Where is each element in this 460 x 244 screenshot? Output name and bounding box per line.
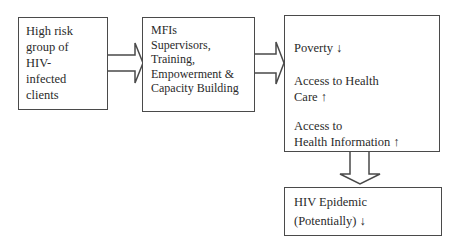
label-line: HIV- xyxy=(26,55,73,71)
node-outcomes: Poverty ↓ Access to Health Care ↑ Access… xyxy=(284,15,440,152)
label-line: Capacity Building xyxy=(151,81,239,96)
label-line: group of xyxy=(26,39,73,55)
node-hiv-epidemic: HIV Epidemic (Potentially) ↓ xyxy=(284,187,442,236)
node-label: High risk group of HIV- infected clients xyxy=(26,23,73,103)
node-label: HIV Epidemic (Potentially) ↓ xyxy=(294,193,367,231)
label-line: clients xyxy=(26,87,73,103)
label-line: High risk xyxy=(26,23,73,39)
node-high-risk-clients: High risk group of HIV- infected clients xyxy=(18,17,108,110)
outcome-health-information: Access to Health Information ↑ xyxy=(294,118,400,150)
label-line: Empowerment & xyxy=(151,67,239,82)
label-line: MFIs xyxy=(151,23,239,38)
label-line: (Potentially) ↓ xyxy=(294,212,367,231)
label-line: HIV Epidemic xyxy=(294,193,367,212)
label-line: Access to xyxy=(294,118,400,134)
label-line: Training, xyxy=(151,52,239,67)
arrow-right-icon xyxy=(254,42,284,84)
label-line: Poverty ↓ xyxy=(294,40,342,56)
arrow-right-icon xyxy=(107,43,143,83)
node-label: MFIs Supervisors, Training, Empowerment … xyxy=(151,23,239,96)
outcome-poverty: Poverty ↓ xyxy=(294,40,342,56)
label-line: Supervisors, xyxy=(151,38,239,53)
label-line: Access to Health xyxy=(294,73,379,89)
node-mfi-training: MFIs Supervisors, Training, Empowerment … xyxy=(142,17,255,112)
label-line: infected xyxy=(26,71,73,87)
arrow-down-icon xyxy=(340,151,380,184)
label-line: Health Information ↑ xyxy=(294,134,400,150)
outcome-health-care: Access to Health Care ↑ xyxy=(294,73,379,105)
label-line: Care ↑ xyxy=(294,89,379,105)
